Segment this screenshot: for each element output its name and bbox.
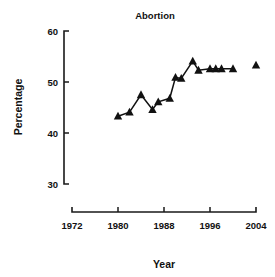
- y-axis-ticks: 30405060: [47, 26, 69, 190]
- y-tick-label: 60: [47, 26, 58, 37]
- data-point-marker: [252, 61, 260, 69]
- y-tick-label: 30: [47, 179, 58, 190]
- y-tick-label: 40: [47, 128, 58, 139]
- chart-title: Abortion: [135, 10, 175, 21]
- y-axis-title: Percentage: [12, 79, 24, 136]
- y-axis-line: [64, 31, 69, 184]
- x-axis-title: Year: [153, 258, 175, 270]
- x-tick-label: 1988: [153, 220, 174, 231]
- y-tick-label: 50: [47, 77, 58, 88]
- x-tick-label: 1996: [199, 220, 220, 231]
- x-tick-label: 1972: [61, 220, 82, 231]
- data-point-marker: [137, 90, 145, 98]
- data-markers: [114, 57, 260, 120]
- x-tick-label: 1980: [107, 220, 128, 231]
- abortion-line-chart: Abortion 30405060 Percentage 19721980198…: [0, 0, 275, 277]
- x-tick-label: 2004: [245, 220, 267, 231]
- x-axis-ticks: 19721980198819962004: [61, 207, 267, 231]
- data-point-marker: [166, 94, 174, 102]
- data-point-marker: [189, 57, 197, 65]
- chart-container: Abortion 30405060 Percentage 19721980198…: [0, 0, 275, 277]
